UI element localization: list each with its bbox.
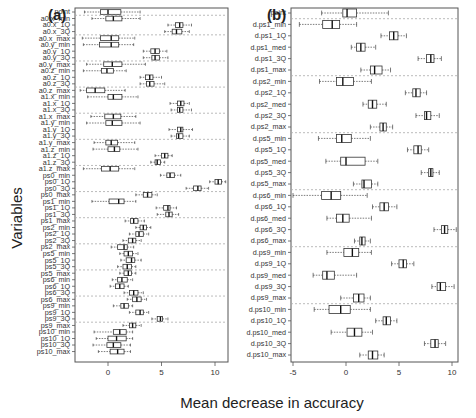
box: [370, 66, 382, 74]
box: [323, 20, 340, 28]
y-tick-label: d.ps10_max: [247, 350, 287, 359]
x-tick-label: -5: [289, 368, 297, 377]
box: [424, 112, 430, 120]
box-row: d.ps1_med: [250, 43, 375, 52]
box-row: ps0_1Q: [45, 177, 226, 186]
box-row: d.ps6_1Q: [255, 202, 397, 211]
box-row: d.ps5_1Q: [255, 145, 429, 154]
box-row: d.ps10_3Q: [251, 339, 446, 348]
y-tick-label: d.ps2_max: [251, 122, 287, 131]
y-tick-label: d.ps5_3Q: [255, 168, 287, 177]
x-tick-label: 5: [159, 368, 164, 377]
box-row: ps10_max: [37, 347, 131, 356]
y-tick-label: d.ps6_3Q: [255, 225, 287, 234]
x-tick-label: 10: [448, 368, 457, 377]
y-axis-title: Variables: [8, 187, 25, 248]
box-row: d.ps9_min: [253, 248, 372, 257]
box-row: d.ps9_med: [250, 271, 356, 280]
y-tick-label: d.ps9_med: [250, 271, 286, 280]
y-tick-label: d.ps2_min: [253, 77, 286, 86]
box-row: d.ps2_3Q: [255, 111, 439, 120]
box-row: d.ps1_1Q: [255, 31, 407, 40]
y-tick-label: d.ps5_med: [250, 157, 286, 166]
box-row: d.ps10_max: [247, 350, 384, 359]
panel-a-label: (a): [48, 6, 66, 23]
box-row: d.ps2_1Q: [255, 88, 427, 97]
y-tick-label: d.ps10_min: [249, 305, 286, 314]
box-row: d.ps5_max: [251, 179, 378, 188]
panel-b-label: (b): [267, 6, 286, 23]
y-tick-label: d.ps9_1Q: [255, 259, 287, 268]
box-row: d.ps5_min: [253, 134, 371, 143]
box-row: d.ps6_max: [251, 236, 371, 245]
box-row: d.ps10_min: [249, 305, 371, 314]
x-tick-label: 0: [344, 368, 349, 377]
y-tick-label: d.ps5_max: [251, 179, 287, 188]
box: [118, 245, 128, 250]
panel-b: pointd.ps1_mind.ps1_1Qd.ps1_medd.ps1_3Qd…: [246, 8, 458, 377]
y-tick-label: ps10_max: [37, 347, 71, 356]
box-row: d.ps2_max: [251, 122, 393, 131]
figure: pointa0.x_mina0.x_1Qa0.x_3Qa0.x_maxa0.y_…: [0, 0, 476, 418]
y-tick-label: d.ps10_3Q: [251, 339, 287, 348]
box: [101, 36, 119, 41]
box-row: d.ps9_3Q: [255, 282, 454, 291]
box-row: point: [270, 8, 388, 17]
box-row: d.ps1_3Q: [255, 54, 442, 63]
y-tick-label: d.ps9_max: [251, 293, 287, 302]
x-tick-label: 0: [106, 368, 111, 377]
y-tick-label: d.ps9_min: [253, 248, 286, 257]
box: [344, 248, 359, 256]
box-row: d.ps10_med: [246, 328, 372, 337]
y-tick-label: d.ps5_min: [253, 134, 286, 143]
y-tick-label: d.ps1_3Q: [255, 54, 287, 63]
box-row: d.ps5_3Q: [255, 168, 439, 177]
y-tick-label: d.ps2_1Q: [255, 88, 287, 97]
box: [329, 305, 350, 313]
y-tick-label: d.ps2_3Q: [255, 111, 287, 120]
box: [101, 10, 121, 15]
x-tick-label: 5: [397, 368, 402, 377]
y-tick-label: d.ps6_1Q: [255, 202, 287, 211]
box: [108, 95, 122, 100]
y-tick-label: d.ps9_3Q: [255, 282, 287, 291]
box: [336, 134, 351, 142]
box: [437, 283, 445, 291]
y-tick-label: d.ps1_1Q: [255, 31, 287, 40]
box: [336, 77, 353, 85]
x-axis-title: Mean decrease in accuracy: [180, 394, 364, 411]
y-tick-label: d.ps6_min: [253, 191, 286, 200]
box: [176, 134, 182, 139]
box-row: d.ps6_min: [253, 191, 367, 200]
box-row: d.ps5_med: [250, 157, 377, 166]
panel-a: pointa0.x_mina0.x_1Qa0.x_3Qa0.x_maxa0.y_…: [37, 7, 228, 377]
y-tick-label: d.ps10_1Q: [251, 316, 287, 325]
box-row: d.ps9_1Q: [255, 259, 414, 268]
box-row: d.ps2_min: [253, 77, 372, 86]
y-tick-label: d.ps1_max: [251, 65, 287, 74]
box: [106, 121, 122, 126]
box: [343, 9, 357, 17]
box: [164, 206, 170, 211]
y-tick-label: d.ps1_med: [250, 43, 286, 52]
box: [109, 199, 124, 204]
y-tick-label: d.ps2_med: [250, 100, 286, 109]
box-row: d.ps10_1Q: [251, 316, 397, 325]
box-row: d.ps6_3Q: [255, 225, 456, 234]
box: [341, 157, 365, 165]
box: [323, 271, 335, 279]
box-row: d.ps1_max: [251, 65, 391, 74]
box: [99, 42, 118, 47]
box-row: d.ps2_med: [250, 100, 386, 109]
box-row: d.ps6_med: [250, 214, 371, 223]
y-tick-label: d.ps6_max: [251, 236, 287, 245]
y-tick-label: d.ps5_1Q: [255, 145, 287, 154]
y-tick-label: d.ps6_med: [250, 214, 286, 223]
x-tick-label: 10: [211, 368, 220, 377]
box: [126, 258, 135, 263]
box-row: d.ps9_max: [251, 293, 371, 302]
y-tick-label: d.ps10_med: [246, 328, 286, 337]
